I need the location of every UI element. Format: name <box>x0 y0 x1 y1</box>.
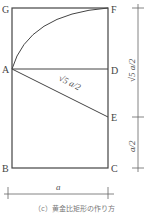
outer-rectangle <box>12 8 108 168</box>
right-dim-lower-label: a/2 <box>127 140 137 152</box>
label-C: C <box>111 163 118 174</box>
arc-AF <box>12 8 108 69</box>
right-dim-upper-label: √5 a/2 <box>127 58 137 82</box>
label-A: A <box>2 64 10 75</box>
figure-caption: （c）黄金比矩形の作り方 <box>0 203 149 213</box>
label-B: B <box>2 163 9 174</box>
label-E: E <box>111 112 117 123</box>
diagonal-length-label: √5 a/2 <box>57 73 83 93</box>
golden-rectangle-diagram: G F A D E B C √5 a/2 √5 a/2 a/2 a <box>0 0 149 214</box>
label-G: G <box>2 4 9 15</box>
label-F: F <box>111 4 117 15</box>
bottom-dim-label: a <box>56 182 61 192</box>
label-D: D <box>111 65 118 76</box>
